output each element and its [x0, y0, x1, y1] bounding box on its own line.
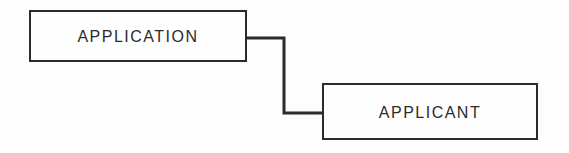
node-application-label: APPLICATION	[77, 28, 198, 46]
diagram-canvas: APPLICATION APPLICANT	[0, 0, 569, 153]
node-applicant-label: APPLICANT	[379, 104, 481, 122]
node-applicant: APPLICANT	[322, 83, 538, 140]
node-application: APPLICATION	[29, 10, 247, 62]
